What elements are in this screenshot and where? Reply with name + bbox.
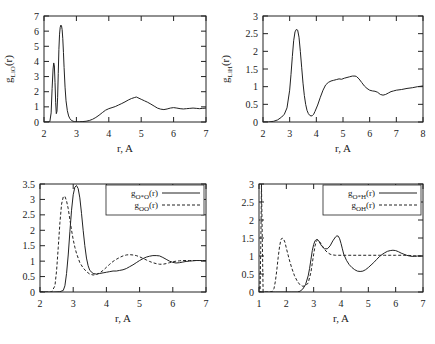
x-tick-label: 3 xyxy=(74,128,79,139)
x-tick-label: 2 xyxy=(42,128,47,139)
x-tick-label: 7 xyxy=(421,298,426,309)
x-axis-label: r, A xyxy=(117,142,133,154)
y-tick-label: 1 xyxy=(34,101,39,112)
y-tick-label: 1.5 xyxy=(242,233,255,244)
y-axis-label: gLiH(r) xyxy=(219,55,234,83)
y-tick-label: 2 xyxy=(30,225,35,236)
x-tick-label: 2 xyxy=(284,298,289,309)
x-tick-label: 2 xyxy=(38,298,43,309)
x-tick-label: 7 xyxy=(394,128,399,139)
series-line-1 xyxy=(263,29,423,122)
figure-container: 23456701234567r, AgLiO(r)234567800.511.5… xyxy=(0,0,435,344)
x-tick-label: 5 xyxy=(341,128,346,139)
y-tick-label: 0.5 xyxy=(242,269,255,280)
y-tick-label: 1 xyxy=(253,81,258,92)
x-tick-label: 6 xyxy=(393,298,398,309)
legend: gO*H(r)gOH(r) xyxy=(323,185,421,215)
x-axis-label: r, A xyxy=(335,142,351,154)
y-tick-label: 3 xyxy=(30,194,35,205)
series-line-1 xyxy=(259,236,423,292)
x-tick-label: 3 xyxy=(287,128,292,139)
series-line-1 xyxy=(44,25,206,122)
x-tick-label: 4 xyxy=(314,128,319,139)
plot-svg-bottom-right: 123456700.511.522.53r, AgO*H(r)gOH(r) xyxy=(217,172,435,344)
x-tick-label: 1 xyxy=(257,298,262,309)
plot-panel-top-left: 23456701234567r, AgLiO(r) xyxy=(0,2,218,174)
y-tick-label: 2 xyxy=(253,46,258,57)
svg-text:gLiO(r): gLiO(r) xyxy=(2,55,17,83)
y-tick-label: 2.5 xyxy=(23,209,36,220)
x-tick-label: 5 xyxy=(137,298,142,309)
legend: gO*O(r)gOO(r) xyxy=(106,185,204,215)
y-tick-label: 0.5 xyxy=(23,271,36,282)
plot-svg-bottom-left: 23456700.511.522.533.5r, AgO*O(r)gOO(r) xyxy=(0,172,218,344)
y-tick-label: 0 xyxy=(253,117,258,128)
x-tick-label: 7 xyxy=(204,298,209,309)
y-tick-label: 7 xyxy=(34,11,39,22)
x-tick-label: 4 xyxy=(339,298,344,309)
y-tick-label: 2.5 xyxy=(246,28,259,39)
svg-text:gLiH(r): gLiH(r) xyxy=(219,55,234,83)
y-tick-label: 0.5 xyxy=(246,99,259,110)
y-tick-label: 2.5 xyxy=(242,197,255,208)
x-tick-label: 4 xyxy=(106,128,111,139)
y-tick-label: 6 xyxy=(34,26,39,37)
plot-svg-top-right: 234567800.511.522.53r, AgLiH(r) xyxy=(217,2,435,174)
x-tick-label: 3 xyxy=(311,298,316,309)
y-tick-label: 2 xyxy=(249,215,254,226)
y-tick-label: 3 xyxy=(249,179,254,190)
plot-panel-bottom-left: 23456700.511.522.533.5r, AgO*O(r)gOO(r) xyxy=(0,172,218,344)
x-tick-label: 6 xyxy=(171,128,176,139)
x-tick-label: 5 xyxy=(139,128,144,139)
plot-svg-top-left: 23456701234567r, AgLiO(r) xyxy=(0,2,218,174)
y-tick-label: 2 xyxy=(34,86,39,97)
y-tick-label: 4 xyxy=(34,56,39,67)
x-tick-label: 7 xyxy=(204,128,209,139)
x-tick-label: 5 xyxy=(366,298,371,309)
y-tick-label: 3.5 xyxy=(23,179,36,190)
x-tick-label: 6 xyxy=(367,128,372,139)
x-tick-label: 4 xyxy=(104,298,109,309)
y-tick-label: 1 xyxy=(249,251,254,262)
x-tick-label: 8 xyxy=(421,128,426,139)
y-tick-label: 3 xyxy=(253,11,258,22)
y-tick-label: 3 xyxy=(34,71,39,82)
y-tick-label: 1.5 xyxy=(246,64,259,75)
y-tick-label: 5 xyxy=(34,41,39,52)
y-axis-label: gLiO(r) xyxy=(2,55,17,83)
y-tick-label: 0 xyxy=(34,117,39,128)
x-tick-label: 3 xyxy=(71,298,76,309)
plot-panel-bottom-right: 123456700.511.522.53r, AgO*H(r)gOH(r) xyxy=(217,172,435,344)
y-tick-label: 0 xyxy=(30,287,35,298)
x-tick-label: 6 xyxy=(170,298,175,309)
x-axis-label: r, A xyxy=(115,312,131,324)
x-axis-label: r, A xyxy=(333,312,349,324)
y-tick-label: 1 xyxy=(30,256,35,267)
plot-frame xyxy=(44,16,206,122)
y-tick-label: 1.5 xyxy=(23,240,36,251)
y-tick-label: 0 xyxy=(249,287,254,298)
plot-panel-top-right: 234567800.511.522.53r, AgLiH(r) xyxy=(217,2,435,174)
x-tick-label: 2 xyxy=(261,128,266,139)
